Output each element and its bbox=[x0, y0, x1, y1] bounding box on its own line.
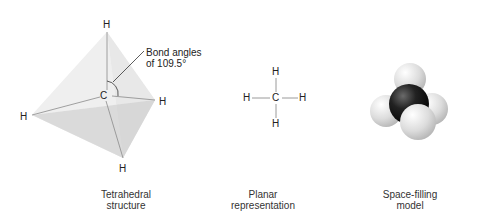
tetra-atom-center: C bbox=[100, 91, 107, 101]
tetrahedron-shape bbox=[32, 32, 155, 158]
space-filling-caption: Space-filling model bbox=[360, 189, 460, 211]
caption-line2: structure bbox=[76, 200, 176, 211]
planar-atom-right: H bbox=[299, 93, 306, 103]
annotation-line1: Bond angles bbox=[146, 47, 202, 58]
planar-atom-left: H bbox=[243, 93, 250, 103]
caption-line1: Space-filling bbox=[360, 189, 460, 200]
tetrahedral-caption: Tetrahedral structure bbox=[76, 189, 176, 211]
tetra-atom-left: H bbox=[20, 112, 27, 122]
caption-line1: Tetrahedral bbox=[76, 189, 176, 200]
bond-angle-annotation: Bond angles of 109.5° bbox=[146, 47, 202, 69]
planar-atom-bottom: H bbox=[272, 119, 279, 129]
caption-line1: Planar bbox=[213, 189, 313, 200]
planar-atom-top: H bbox=[272, 67, 279, 77]
tetra-atom-bottom: H bbox=[119, 164, 126, 174]
caption-line2: model bbox=[360, 200, 460, 211]
diagram-graphics bbox=[0, 0, 477, 212]
planar-atom-center: C bbox=[272, 93, 279, 103]
tetra-atom-right: H bbox=[159, 97, 166, 107]
planar-caption: Planar representation bbox=[213, 189, 313, 211]
tetra-atom-top: H bbox=[103, 20, 110, 30]
annotation-line2: of 109.5° bbox=[146, 58, 202, 69]
space-filling-model bbox=[370, 63, 448, 140]
caption-line2: representation bbox=[213, 200, 313, 211]
